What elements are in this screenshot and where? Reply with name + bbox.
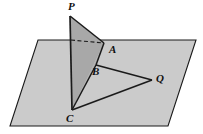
vertex-label-p: P [68,1,75,12]
geometry-figure: P A B Q C [0,0,203,134]
geometry-canvas [0,0,203,134]
vertex-label-b: B [92,66,99,77]
plane-parallelogram [10,40,196,126]
vertex-label-q: Q [156,73,164,84]
vertex-label-c: C [66,113,73,124]
vertex-label-a: A [109,44,116,55]
